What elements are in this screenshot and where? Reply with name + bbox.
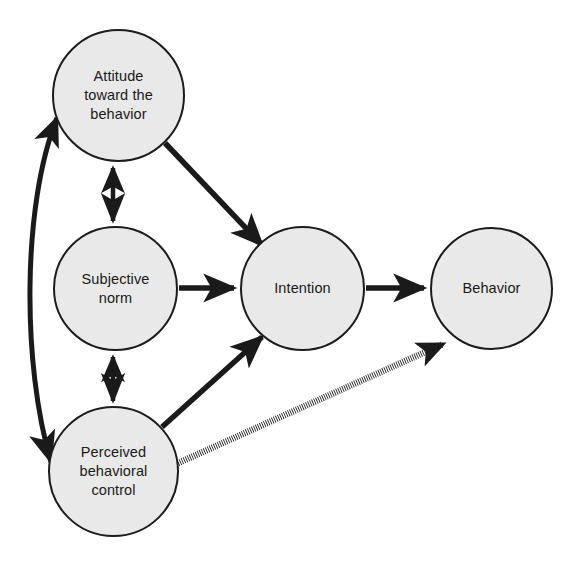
edge-attitude-to-intention bbox=[165, 143, 262, 245]
node-perceived-behavioral-control[interactable]: Perceived behavioral control bbox=[48, 406, 179, 537]
node-label: Behavior bbox=[456, 279, 526, 298]
edge-pbc-to-intention bbox=[162, 337, 262, 427]
node-attitude-toward-the-behavior[interactable]: Attitude toward the behavior bbox=[52, 29, 185, 162]
node-intention[interactable]: Intention bbox=[240, 226, 365, 351]
edge-pbc-to-behavior bbox=[176, 344, 443, 464]
node-label: Perceived behavioral control bbox=[74, 443, 154, 500]
node-label: Attitude toward the behavior bbox=[78, 67, 159, 124]
node-behavior[interactable]: Behavior bbox=[430, 227, 553, 350]
diagram-canvas: Attitude toward the behavior Subjective … bbox=[0, 0, 578, 568]
node-subjective-norm[interactable]: Subjective norm bbox=[53, 226, 178, 351]
node-label: Subjective norm bbox=[76, 270, 156, 308]
node-label: Intention bbox=[268, 279, 337, 298]
